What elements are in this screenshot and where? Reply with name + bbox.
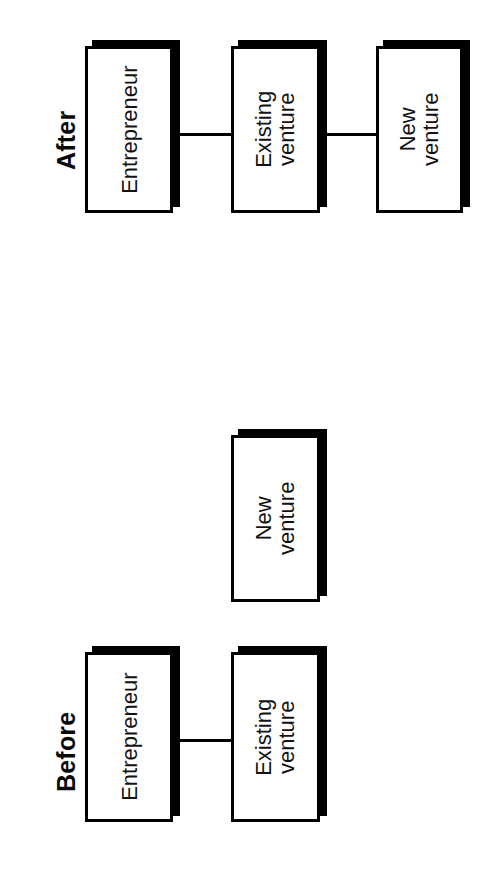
node-face: New venture [231,435,320,602]
node-face: Existing venture [231,652,320,822]
connector-after-existing-to-new [320,133,376,136]
node-face: New venture [376,46,463,213]
node-before-entrepreneur[interactable]: Entrepreneur [85,652,173,822]
node-label-after-entrepreneur: Entrepreneur [117,65,140,193]
connector-before-entrepreneur-to-existing [172,739,231,742]
connector-after-entrepreneur-to-existing [172,133,231,136]
node-face: Existing venture [231,46,320,213]
node-before-existing-venture[interactable]: Existing venture [231,652,320,822]
node-label-after-existing-venture: Existing venture [252,91,299,168]
node-after-new-venture[interactable]: New venture [376,46,463,213]
section-label-before: Before [52,712,81,792]
node-after-existing-venture[interactable]: Existing venture [231,46,320,213]
node-label-before-entrepreneur: Entrepreneur [117,673,140,801]
node-face: Entrepreneur [85,46,173,213]
node-label-before-existing-venture: Existing venture [252,698,299,775]
node-label-before-new-venture: New venture [252,482,299,555]
node-after-entrepreneur[interactable]: Entrepreneur [85,46,173,213]
section-label-after: After [52,111,81,170]
diagram-canvas: After Entrepreneur Existing venture New … [0,0,494,880]
node-face: Entrepreneur [85,652,173,822]
node-before-new-venture[interactable]: New venture [231,435,320,602]
node-label-after-new-venture: New venture [396,93,443,166]
